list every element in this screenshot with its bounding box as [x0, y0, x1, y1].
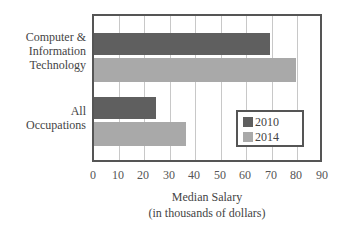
x-tick: 90: [316, 168, 328, 183]
x-axis-sublabel: (in thousands of dollars): [92, 206, 322, 221]
x-tick: 70: [265, 168, 277, 183]
x-tick: 50: [214, 168, 226, 183]
legend: 2010 2014: [236, 110, 304, 147]
x-tick: 80: [290, 168, 302, 183]
legend-swatch-2014: [243, 132, 253, 142]
legend-item-2014: 2014: [243, 130, 279, 144]
x-axis-label: Median Salary: [92, 190, 322, 205]
category-label-cit: Computer & Information Technology: [26, 30, 86, 72]
cat-line: Computer &: [26, 30, 86, 44]
category-label-all: All Occupations: [26, 104, 86, 132]
x-tick: 40: [188, 168, 200, 183]
x-tick: 60: [239, 168, 251, 183]
x-tick: 10: [112, 168, 124, 183]
x-tick: 20: [137, 168, 149, 183]
x-tick: 0: [90, 168, 96, 183]
cat-line: Technology: [26, 58, 86, 72]
legend-item-2010: 2010: [243, 115, 279, 129]
bar-all-2014: [94, 122, 186, 146]
bar-all-2010: [94, 97, 156, 119]
cat-line: Occupations: [26, 118, 86, 132]
legend-label-2014: 2014: [255, 130, 279, 145]
x-tick: 30: [163, 168, 175, 183]
legend-swatch-2010: [243, 117, 253, 127]
bar-cit-2014: [94, 58, 296, 82]
plot-area: 2010 2014: [92, 14, 322, 162]
cat-line: Information: [26, 44, 86, 58]
legend-label-2010: 2010: [255, 115, 279, 130]
cat-line: All: [26, 104, 86, 118]
bar-cit-2010: [94, 33, 270, 55]
